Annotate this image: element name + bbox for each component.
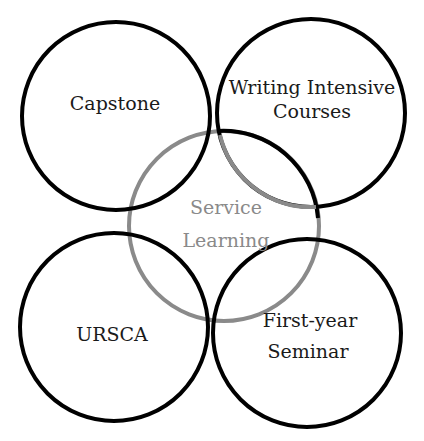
service-learning-label-line1: Service	[190, 196, 262, 218]
writing-intensive-label-line2: Courses	[273, 100, 351, 122]
capstone-label: Capstone	[70, 92, 160, 114]
first-year-seminar-label-line1: First-year	[263, 309, 358, 331]
writing-intensive-label-line1: Writing Intensive	[229, 76, 396, 98]
capstone-circle	[22, 22, 210, 210]
service-learning-label-line2: Learning	[183, 229, 270, 251]
first-year-seminar-label-line2: Seminar	[267, 340, 349, 362]
first-year-seminar-circle	[213, 239, 401, 427]
diagram-canvas: Capstone Writing Intensive Courses Servi…	[0, 0, 424, 441]
ursca-label: URSCA	[76, 323, 148, 345]
